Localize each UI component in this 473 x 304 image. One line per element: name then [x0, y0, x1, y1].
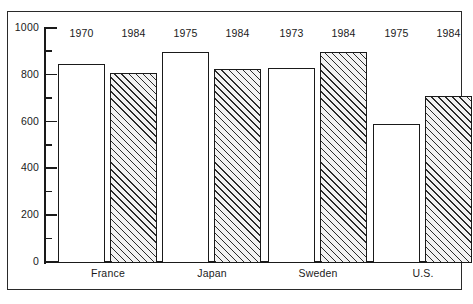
year-label-sweden-1973: 1973 — [268, 27, 315, 39]
year-label-france-1970: 1970 — [58, 27, 105, 39]
bar-japan-1975 — [162, 52, 209, 263]
bar-france-1984 — [110, 73, 157, 263]
bar-chart-plot: 10008006004002000 1970198419751984197319… — [0, 0, 473, 304]
group-label-japan: Japan — [167, 267, 257, 279]
chart-screenshot: 10008006004002000 1970198419751984197319… — [0, 0, 473, 304]
bar-us-1975 — [373, 124, 420, 263]
group-label-france: France — [63, 267, 153, 279]
year-label-us-1984: 1984 — [425, 27, 472, 39]
year-label-japan-1984: 1984 — [214, 27, 261, 39]
group-label-us: U.S. — [378, 267, 468, 279]
group-label-sweden: Sweden — [273, 267, 363, 279]
year-label-japan-1975: 1975 — [162, 27, 209, 39]
bar-france-1970 — [58, 64, 105, 263]
year-label-sweden-1984: 1984 — [320, 27, 367, 39]
year-label-france-1984: 1984 — [110, 27, 157, 39]
year-label-us-1975: 1975 — [373, 27, 420, 39]
bar-us-1984 — [425, 96, 472, 263]
bar-japan-1984 — [214, 69, 261, 263]
bar-sweden-1984 — [320, 52, 367, 263]
bar-sweden-1973 — [268, 68, 315, 263]
